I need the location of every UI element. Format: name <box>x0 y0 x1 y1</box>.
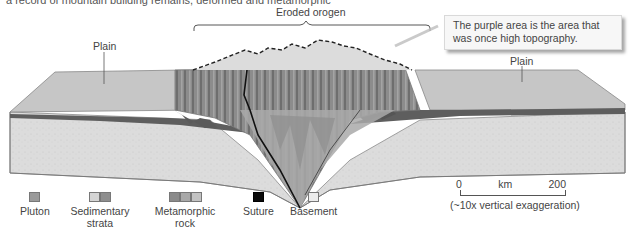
sedimentary-dark-swatch <box>100 192 111 202</box>
suture-swatch <box>253 192 264 202</box>
scale-unit: km <box>498 178 512 190</box>
metamorphic-mid-swatch <box>180 192 191 202</box>
scale-max: 200 <box>548 178 566 190</box>
scale-bar: 0 km 200 (~10x vertical exaggeration) <box>450 178 580 211</box>
eroded-orogen-label: Eroded orogen <box>276 6 345 18</box>
legend-metamorphic-rock: Metamorphic rock <box>150 192 220 229</box>
metamorphic-light-swatch <box>191 192 202 202</box>
callout-box: The purple area is the area that was onc… <box>444 15 622 50</box>
eroded-orogen-bracket <box>194 21 430 31</box>
legend-basement: Basement <box>290 192 337 217</box>
scale-line <box>460 190 566 196</box>
legend-sedimentary-strata: Sedimentary strata <box>70 192 130 229</box>
legend-pluton: Pluton <box>20 192 50 217</box>
legend-suture: Suture <box>243 192 274 217</box>
sedimentary-light-swatch <box>89 192 100 202</box>
metamorphic-dark-swatch <box>169 192 180 202</box>
basement-swatch <box>308 192 319 202</box>
pluton-swatch <box>29 192 40 202</box>
eroded-topography <box>195 40 412 70</box>
plain-right-label: Plain <box>510 55 533 67</box>
scale-min: 0 <box>456 178 462 190</box>
vertical-exaggeration-note: (~10x vertical exaggeration) <box>450 199 580 211</box>
plain-surface-right <box>415 70 625 110</box>
plain-left-label: Plain <box>93 40 116 52</box>
